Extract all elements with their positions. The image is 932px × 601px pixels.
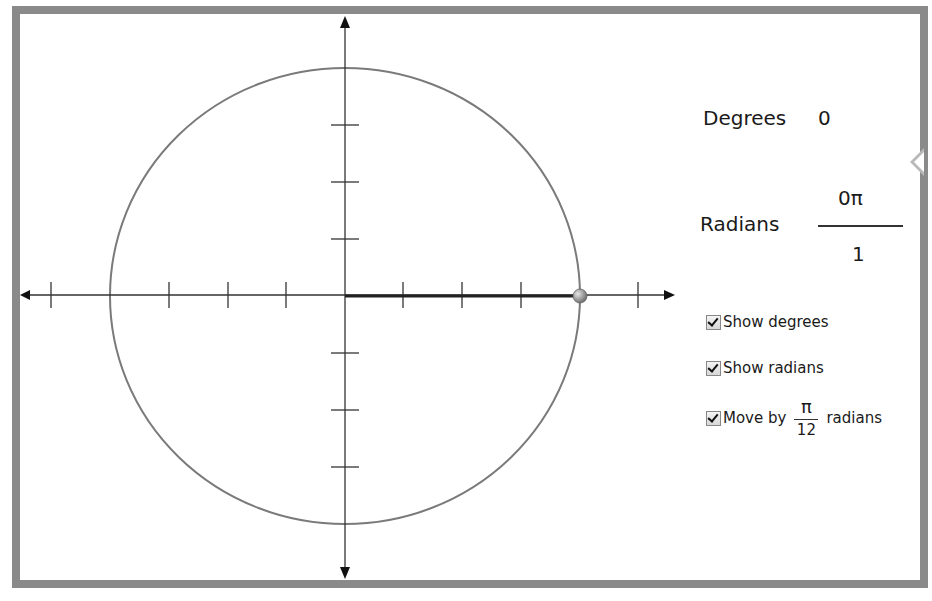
- radians-label: Radians: [700, 212, 779, 236]
- x-axis-right-arrow-icon: [664, 290, 675, 300]
- unit-circle-plot[interactable]: [0, 0, 932, 601]
- show-radians-option[interactable]: Show radians: [706, 359, 824, 377]
- x-axis-left-arrow-icon: [20, 290, 30, 300]
- move-by-prefix-label: Move by: [723, 409, 786, 427]
- show-radians-label: Show radians: [723, 359, 824, 377]
- move-by-fraction: π 12: [794, 398, 818, 438]
- radians-numerator: 0π: [838, 186, 863, 210]
- radians-denominator: 1: [852, 242, 865, 266]
- show-degrees-label: Show degrees: [723, 313, 829, 331]
- y-axis-up-arrow-icon: [340, 16, 350, 28]
- move-by-denominator: 12: [797, 420, 816, 438]
- radians-fraction-bar: [818, 225, 903, 227]
- show-degrees-option[interactable]: Show degrees: [706, 313, 829, 331]
- move-by-suffix-label: radians: [826, 409, 882, 427]
- y-axis-down-arrow-icon: [340, 567, 350, 579]
- degrees-label: Degrees: [703, 106, 786, 130]
- degrees-value: 0: [818, 106, 831, 130]
- move-by-checkbox[interactable]: [706, 411, 721, 426]
- show-radians-checkbox[interactable]: [706, 361, 721, 376]
- angle-point-handle[interactable]: [573, 289, 587, 303]
- move-by-numerator: π: [801, 398, 812, 419]
- move-by-option[interactable]: Move by π 12 radians: [706, 398, 882, 438]
- show-degrees-checkbox[interactable]: [706, 315, 721, 330]
